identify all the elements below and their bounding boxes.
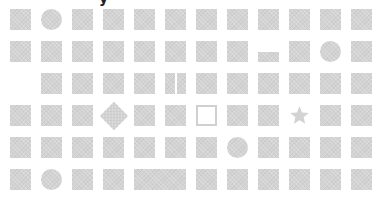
shape-wide-r5-c4 (134, 169, 186, 190)
shape-square-r4-c9 (289, 137, 310, 158)
shape-square-r0-c10 (320, 9, 341, 30)
shape-square-r3-c8 (258, 105, 279, 126)
shape-square-r2-c2 (72, 73, 93, 94)
shape-square-r2-c10 (320, 73, 341, 94)
shape-square-r0-c6 (196, 9, 217, 30)
shape-bar-r1-c8 (258, 52, 279, 62)
shape-square-r2-c3 (103, 73, 124, 94)
shape-square-r5-c0 (10, 169, 31, 190)
shape-square-r5-c9 (289, 169, 310, 190)
shape-square-r3-c10 (320, 105, 341, 126)
shape-circle-r0-c1 (41, 9, 62, 30)
shape-square-r2-c11 (351, 73, 372, 94)
shape-square-r5-c11 (351, 169, 372, 190)
shape-square-r1-c2 (72, 41, 93, 62)
shape-square-r1-c9 (289, 41, 310, 62)
shape-square-r2-c7 (227, 73, 248, 94)
shape-square-r1-c1 (41, 41, 62, 62)
shape-square-r2-c1 (41, 73, 62, 94)
shape-circle-r4-c7 (227, 137, 248, 158)
shape-square-r2-c9 (289, 73, 310, 94)
partial-title-glyph: y (99, 0, 108, 5)
shape-square-r0-c3 (103, 9, 124, 30)
shape-square-r2-c4 (134, 73, 155, 94)
shape-square-r3-c5 (165, 105, 186, 126)
shape-square-r1-c5 (165, 41, 186, 62)
shape-square-r3-c7 (227, 105, 248, 126)
split-half-r (177, 73, 186, 94)
shape-square-r4-c1 (41, 137, 62, 158)
shape-split-r2-c5 (165, 73, 186, 94)
shape-square-r2-c6 (196, 73, 217, 94)
shape-square-r3-c1 (41, 105, 62, 126)
shape-square-r5-c7 (227, 169, 248, 190)
shape-square-r0-c8 (258, 9, 279, 30)
shape-square-r1-c4 (134, 41, 155, 62)
shape-square-r4-c11 (351, 137, 372, 158)
shape-square-r4-c8 (258, 137, 279, 158)
shape-square-r0-c5 (165, 9, 186, 30)
shape-square-r3-c11 (351, 105, 372, 126)
split-half-l (165, 73, 175, 94)
shape-star-r3-c9 (289, 105, 310, 126)
shape-square-r1-c7 (227, 41, 248, 62)
shape-outline-r3-c6 (196, 105, 217, 126)
shape-square-r1-c11 (351, 41, 372, 62)
shape-square-r3-c0 (10, 105, 31, 126)
shape-square-r0-c7 (227, 9, 248, 30)
shape-circle-r1-c10 (320, 41, 341, 62)
shape-square-r4-c4 (134, 137, 155, 158)
shape-square-r1-c0 (10, 41, 31, 62)
shape-square-r4-c5 (165, 137, 186, 158)
shape-square-r4-c10 (320, 137, 341, 158)
shape-square-r4-c0 (10, 137, 31, 158)
shape-diamond-r3-c3 (100, 102, 128, 130)
shape-square-r0-c0 (10, 9, 31, 30)
star-icon (289, 105, 310, 126)
shape-square-r5-c8 (258, 169, 279, 190)
shape-square-r4-c6 (196, 137, 217, 158)
shape-square-r0-c4 (134, 9, 155, 30)
shape-square-r5-c10 (320, 169, 341, 190)
shape-square-r0-c9 (289, 9, 310, 30)
shape-square-r5-c3 (103, 169, 124, 190)
shape-square-r1-c6 (196, 41, 217, 62)
shape-square-r5-c2 (72, 169, 93, 190)
shape-square-r3-c4 (134, 105, 155, 126)
shape-square-r4-c3 (103, 137, 124, 158)
shape-square-r0-c2 (72, 9, 93, 30)
shape-square-r4-c2 (72, 137, 93, 158)
shape-square-r1-c3 (103, 41, 124, 62)
shape-square-r5-c6 (196, 169, 217, 190)
shape-square-r3-c2 (72, 105, 93, 126)
shape-square-r2-c8 (258, 73, 279, 94)
shape-square-r0-c11 (351, 9, 372, 30)
shape-circle-r5-c1 (41, 169, 62, 190)
